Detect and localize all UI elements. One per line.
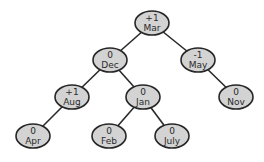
tree-node-feb: 0Feb bbox=[92, 124, 126, 148]
node-label: July bbox=[163, 136, 181, 146]
tree-node-dec: 0Dec bbox=[93, 48, 127, 72]
node-balance-factor: 0 bbox=[140, 87, 146, 97]
node-label: May bbox=[189, 60, 208, 70]
node-balance-factor: 0 bbox=[30, 126, 36, 136]
node-label: Aug bbox=[63, 97, 81, 107]
node-balance-factor: 0 bbox=[106, 126, 112, 136]
tree-node-aug: +1Aug bbox=[55, 85, 89, 109]
tree-node-mar: +1Mar bbox=[135, 11, 169, 35]
node-label: Dec bbox=[101, 60, 118, 70]
node-label: Mar bbox=[144, 23, 161, 33]
node-label: Feb bbox=[101, 136, 117, 146]
avl-tree-diagram: +1Mar0Dec-1May+1Aug0Jan0Nov0Apr0Feb0July bbox=[0, 0, 264, 162]
tree-node-july: 0July bbox=[155, 124, 189, 148]
node-balance-factor: +1 bbox=[65, 87, 78, 97]
edges-layer bbox=[33, 23, 236, 136]
tree-node-may: -1May bbox=[181, 48, 215, 72]
node-label: Nov bbox=[227, 97, 245, 107]
node-label: Jan bbox=[135, 97, 150, 107]
node-label: Apr bbox=[25, 136, 41, 146]
tree-node-jan: 0Jan bbox=[126, 85, 160, 109]
tree-node-apr: 0Apr bbox=[16, 124, 50, 148]
tree-node-nov: 0Nov bbox=[219, 85, 253, 109]
node-balance-factor: +1 bbox=[145, 13, 158, 23]
node-balance-factor: 0 bbox=[107, 50, 113, 60]
node-balance-factor: -1 bbox=[194, 50, 203, 60]
node-balance-factor: 0 bbox=[233, 87, 239, 97]
node-balance-factor: 0 bbox=[169, 126, 175, 136]
